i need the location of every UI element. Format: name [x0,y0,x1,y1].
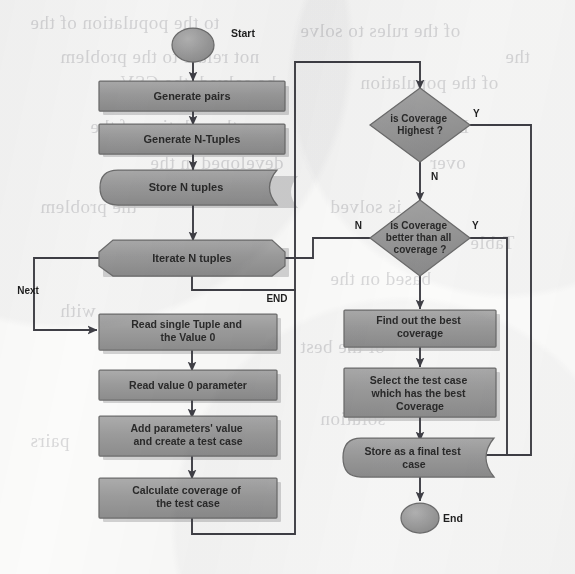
label-add-params: Add parameters' value and create a test … [130,422,245,447]
label-is-highest: is Coverage Highest ? [390,113,449,136]
label-start: Start [231,27,255,39]
label-store-tuples: Store N tuples [149,181,224,193]
edge-label-end: END [266,293,287,304]
edge-label-is-better-yes: Y [472,220,479,231]
edge-label-is-highest-no: N [431,171,438,182]
flowchart-svg: Start Generate pairs Generate N-Tuples S… [0,0,575,574]
label-iterate-tuples: Iterate N tuples [152,252,231,264]
label-generate-pairs: Generate pairs [153,90,230,102]
edge-label-next: Next [17,285,39,296]
edge-label-is-highest-yes: Y [473,108,480,119]
label-end: End [443,512,463,524]
node-start[interactable] [172,28,214,62]
label-read-value: Read value 0 parameter [129,379,247,391]
edge-label-is-better-no: N [355,220,362,231]
label-generate-tuples: Generate N-Tuples [144,133,241,145]
label-is-better: is Coverage better than all coverage ? [386,220,454,255]
node-end[interactable] [401,503,439,533]
edge-iterate-next-to-read-tuple [34,258,100,330]
edge-iterate-end [192,276,295,290]
flowchart-canvas: to the population of theof the rules to … [0,0,575,574]
